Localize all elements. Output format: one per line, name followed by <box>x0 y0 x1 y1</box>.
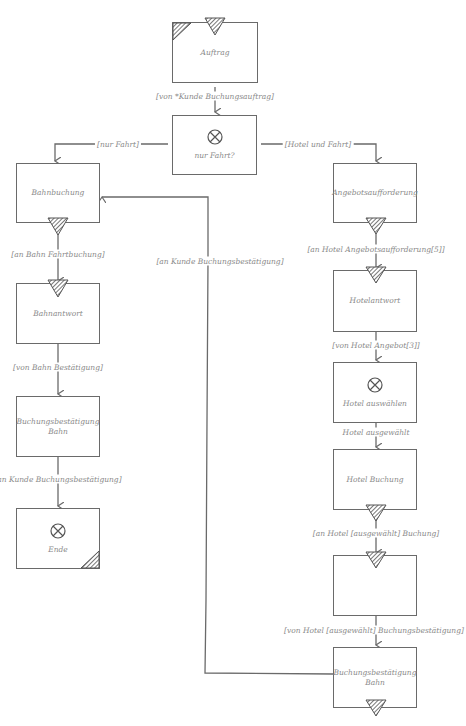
node-bahnantwort[interactable]: Bahnantwort <box>16 283 100 344</box>
node-label: Hotel auswählen <box>339 399 411 409</box>
xor-gateway-icon <box>367 377 383 393</box>
node-bahnbuchung[interactable]: Bahnbuchung <box>16 163 100 223</box>
node-hotel-buchung[interactable]: Hotel Buchung <box>333 449 417 510</box>
edge-label: [an Hotel Angebotsaufforderung[5]] <box>305 245 446 254</box>
edge-label: [an Bahn Fahrtbuchung] <box>9 250 106 259</box>
node-label: Ende <box>44 545 72 555</box>
node-label: Buchungsbestätigung Bahn <box>13 417 104 437</box>
xor-gateway-icon <box>207 129 223 145</box>
xor-gateway-icon <box>50 523 66 539</box>
node-nur-fahrt[interactable]: nur Fahrt? <box>172 115 257 175</box>
node-label: Buchungsbestätigung Bahn <box>330 668 421 688</box>
edge-return-to-bahnbuchung <box>102 197 333 674</box>
edge-label: [an Kunde Buchungsbestätigung] <box>154 257 285 266</box>
node-label: Angebotsaufforderung <box>328 188 422 198</box>
node-ende[interactable]: Ende <box>16 508 100 569</box>
node-label: nur Fahrt? <box>190 151 238 161</box>
node-empty[interactable] <box>333 555 417 616</box>
node-buchungsbestaetigung-bahn-left[interactable]: Buchungsbestätigung Bahn <box>16 396 100 457</box>
edge-label: [Hotel und Fahrt] <box>283 140 354 149</box>
node-label: Hotelantwort <box>346 296 405 306</box>
node-label: Bahnbuchung <box>28 188 89 198</box>
node-label: Auftrag <box>197 48 234 58</box>
node-hotel-auswaehlen[interactable]: Hotel auswählen <box>333 362 417 423</box>
edge-label: [von Hotel [ausgewählt] Buchungsbestätig… <box>282 626 466 635</box>
edge-label: [von *Kunde Buchungsauftrag] <box>154 92 276 101</box>
node-label: Bahnantwort <box>29 309 87 319</box>
node-auftrag[interactable]: Auftrag <box>172 22 258 83</box>
edge-label: [an Kunde Buchungsbestätigung] <box>0 475 124 484</box>
edge-label: Hotel ausgewählt <box>341 428 412 437</box>
edge-label: [nur Fahrt] <box>95 140 141 149</box>
node-label: Hotel Buchung <box>342 475 407 485</box>
node-hotelantwort[interactable]: Hotelantwort <box>333 270 417 332</box>
node-buchungsbestaetigung-bahn-right[interactable]: Buchungsbestätigung Bahn <box>333 647 417 708</box>
edge-label: [an Hotel [ausgewählt] Buchung] <box>311 529 441 538</box>
edge-label: [von Bahn Bestätigung] <box>11 363 105 372</box>
edge-label: [von Hotel Angebot[3]] <box>330 341 422 350</box>
node-angebotsaufforderung[interactable]: Angebotsaufforderung <box>333 163 417 223</box>
